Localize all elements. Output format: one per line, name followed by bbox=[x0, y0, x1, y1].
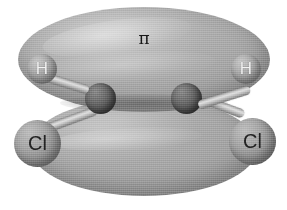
atom-label-hydrogen-right: H bbox=[240, 59, 252, 79]
atom-chlorine-left: Cl bbox=[14, 120, 61, 167]
pi-orbital-label: π bbox=[134, 28, 154, 48]
atom-label-chlorine-left: Cl bbox=[28, 132, 47, 155]
atom-label-hydrogen-left: H bbox=[36, 59, 48, 79]
atom-label-chlorine-right: Cl bbox=[243, 130, 262, 153]
atom-hydrogen-right: H bbox=[231, 54, 261, 84]
molecular-orbital-figure: H H Cl Cl π bbox=[0, 0, 287, 210]
atom-carbon-right bbox=[171, 83, 202, 114]
atom-chlorine-right: Cl bbox=[229, 118, 276, 165]
atom-hydrogen-left: H bbox=[27, 54, 57, 84]
atom-carbon-left bbox=[85, 83, 116, 114]
